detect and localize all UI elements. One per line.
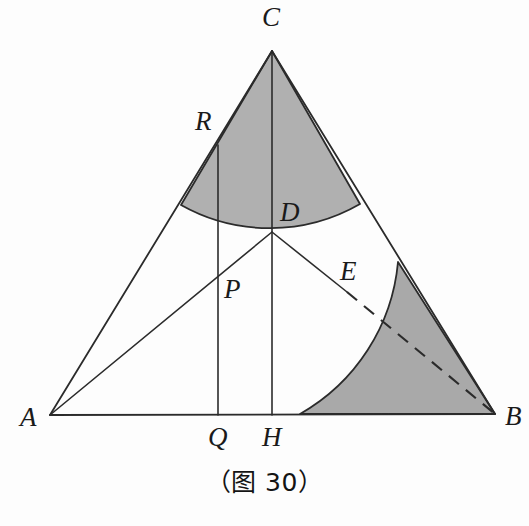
figure-container: A B C D E H Q R P （图 30） [0,0,529,526]
figure-caption: （图 30） [0,462,529,498]
label-point-b: B [505,403,522,430]
label-point-d: D [280,199,300,226]
label-point-q: Q [208,424,228,451]
label-point-h: H [262,424,282,451]
label-point-p: P [224,276,241,303]
label-point-c: C [262,4,280,31]
label-point-e: E [340,258,357,285]
label-point-a: A [20,404,37,431]
label-point-r: R [195,108,212,135]
